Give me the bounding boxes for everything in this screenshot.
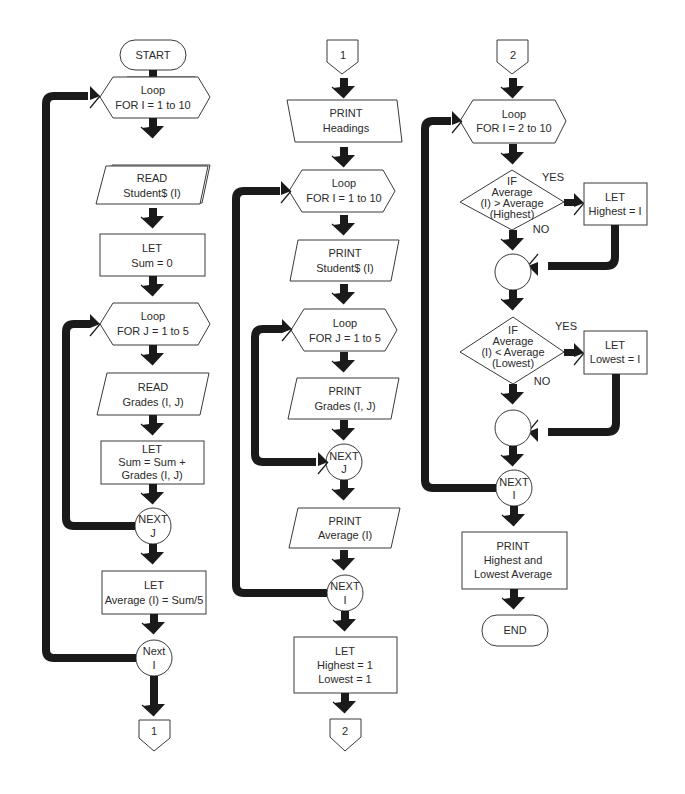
- arrow-down-icon: [142, 614, 165, 634]
- loop-j-1-to-5-print[interactable]: Loop FOR J = 1 to 5: [291, 309, 397, 351]
- read-student-input[interactable]: READ Student$ (I): [96, 165, 210, 204]
- loop-i-2-to-10[interactable]: Loop FOR I = 2 to 10: [460, 100, 566, 143]
- io-label: READ: [138, 381, 169, 393]
- next-j-connector[interactable]: NEXT J: [135, 508, 171, 544]
- offpage-connector-1-in[interactable]: 1: [327, 40, 358, 74]
- next-label: NEXT: [330, 580, 360, 592]
- end-label: END: [503, 624, 526, 636]
- process-label: LET: [142, 242, 162, 254]
- arrow-right-icon: [318, 452, 328, 474]
- arrow-right-icon: [90, 86, 100, 108]
- io-value: Grades (I, J): [314, 400, 375, 412]
- arrow-right-icon: [574, 193, 584, 215]
- let-highest-lowest-init[interactable]: LET Highest = 1 Lowest = 1: [294, 637, 397, 693]
- next-var: I: [512, 489, 515, 501]
- arrow-right-icon: [452, 111, 462, 133]
- process-label: LET: [605, 339, 625, 351]
- io-value: Headings: [323, 122, 370, 134]
- no-label: NO: [533, 223, 550, 235]
- next-i-connector[interactable]: Next I: [136, 640, 172, 676]
- next-label: NEXT: [499, 476, 529, 488]
- return-lowest-path: [548, 374, 616, 432]
- arrow-down-icon: [332, 215, 355, 235]
- loop-range: FOR I = 2 to 10: [476, 122, 552, 134]
- arrow-down-icon: [141, 484, 164, 504]
- loop-label: Loop: [332, 177, 356, 189]
- arrow-down-icon: [502, 506, 525, 526]
- arrow-down-icon: [332, 284, 355, 304]
- next-i-print-connector[interactable]: NEXT I: [327, 575, 363, 611]
- join-connector-2: [495, 410, 531, 446]
- io-value: Average (I): [318, 529, 372, 541]
- arrow-down-icon: [332, 420, 355, 440]
- loop-label: Loop: [141, 84, 165, 96]
- let-highest-i[interactable]: LET Highest = I: [584, 183, 647, 225]
- next-j-print-connector[interactable]: NEXT J: [326, 444, 362, 480]
- start-terminal[interactable]: START: [120, 40, 186, 70]
- arrow-down-icon: [332, 147, 355, 167]
- print-headings-output[interactable]: PRINT Headings: [287, 100, 402, 142]
- let-sum-zero[interactable]: LET Sum = 0: [100, 234, 205, 276]
- io-label: PRINT: [329, 385, 362, 397]
- print-average-output[interactable]: PRINT Average (I): [289, 508, 400, 548]
- io-value: Student$ (I): [316, 262, 373, 274]
- io-label: PRINT: [330, 107, 363, 119]
- process-value: Lowest = I: [590, 353, 640, 365]
- loop-range: FOR I = 1 to 10: [115, 99, 191, 111]
- arrow-down-icon: [333, 693, 356, 713]
- connector-label: 2: [342, 725, 348, 737]
- process-value: Highest = I: [589, 205, 642, 217]
- process-label: LET: [144, 579, 164, 591]
- arrow-down-icon: [141, 544, 164, 564]
- io-label: PRINT: [329, 515, 362, 527]
- loop-back-j-path: [66, 324, 135, 526]
- connector-label: 2: [510, 49, 516, 61]
- loop-range: FOR J = 1 to 5: [117, 325, 189, 337]
- arrow-down-icon: [332, 550, 355, 570]
- start-label: START: [135, 49, 170, 61]
- arrow-down-icon: [332, 78, 355, 98]
- loop-range: FOR I = 1 to 10: [306, 192, 382, 204]
- process-label: LET: [335, 645, 355, 657]
- io-label: READ: [137, 172, 168, 184]
- decision-less-than-lowest[interactable]: IF Average (I) < Average (Lowest): [460, 317, 564, 384]
- print-grades-output[interactable]: PRINT Grades (I, J): [288, 378, 399, 419]
- offpage-connector-1-out[interactable]: 1: [139, 720, 170, 751]
- loop-i-1-to-10-print[interactable]: Loop FOR I = 1 to 10: [289, 170, 395, 212]
- read-grades-input[interactable]: READ Grades (I, J): [97, 373, 209, 415]
- let-lowest-i[interactable]: LET Lowest = I: [584, 331, 647, 374]
- offpage-connector-2-out[interactable]: 2: [330, 719, 361, 751]
- process-label: LET: [605, 191, 625, 203]
- loop-label: Loop: [502, 108, 526, 120]
- io-value: Student$ (I): [123, 187, 180, 199]
- column-1: START Loop FOR I = 1 to 10 READ Student$…: [46, 40, 210, 751]
- arrow-down-icon: [501, 144, 524, 164]
- let-average[interactable]: LET Average (I) = Sum/5: [102, 571, 206, 614]
- next-label: NEXT: [138, 513, 168, 525]
- io-label: PRINT: [329, 247, 362, 259]
- loop-i-1-to-10[interactable]: Loop FOR I = 1 to 10: [100, 77, 210, 118]
- process-label: LET: [142, 443, 162, 455]
- decision-line: (Lowest): [492, 357, 534, 369]
- process-value: Lowest = 1: [318, 673, 372, 685]
- loop-back-i-compare-path: [425, 121, 496, 488]
- process-label: PRINT: [497, 540, 530, 552]
- arrow-down-icon: [141, 415, 164, 435]
- connector-label: 1: [151, 725, 157, 737]
- next-var: J: [341, 463, 347, 475]
- offpage-connector-2-in[interactable]: 2: [497, 40, 528, 74]
- end-terminal[interactable]: END: [482, 615, 548, 646]
- print-highest-lowest[interactable]: PRINT Highest and Lowest Average: [462, 532, 567, 589]
- loop-j-1-to-5[interactable]: Loop FOR J = 1 to 5: [100, 303, 210, 345]
- arrow-down-icon: [502, 589, 525, 609]
- print-student-output[interactable]: PRINT Student$ (I): [290, 240, 399, 281]
- let-sum-accumulate[interactable]: LET Sum = Sum + Grades (I, J): [101, 441, 204, 484]
- next-label: Next: [143, 645, 166, 657]
- arrow-down-icon: [141, 276, 164, 296]
- arrow-down-icon: [332, 352, 355, 372]
- next-i-compare-connector[interactable]: NEXT I: [496, 470, 532, 506]
- arrow-down-icon: [333, 611, 356, 631]
- io-value: Grades (I, J): [122, 396, 183, 408]
- arrow-down-icon: [141, 345, 164, 365]
- process-value: Sum = Sum +: [118, 456, 185, 468]
